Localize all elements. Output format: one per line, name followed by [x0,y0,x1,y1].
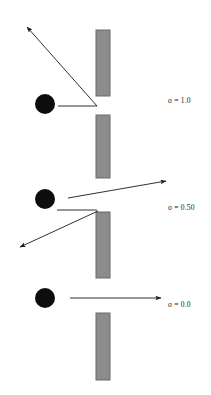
barrier-bar [96,313,110,380]
panel-panel-sigma-1 [27,27,110,178]
sigma-label-panel-sigma-0: σ = 0.0 [168,300,191,309]
diagram-canvas [0,0,211,395]
particle-circle [35,288,55,308]
barrier-bar [96,115,110,178]
panel-panel-sigma-050 [20,181,166,278]
outgoing-trajectory-arrow [68,181,166,198]
particle-circle [35,94,55,114]
barrier-bar [96,212,110,278]
sigma-label-panel-sigma-1: σ = 1.0 [168,96,191,105]
sigma-label-panel-sigma-050: σ = 0.50 [168,203,195,212]
panel-panel-sigma-0 [35,288,161,380]
barrier-bar [96,30,110,96]
outgoing-trajectory-arrow [20,211,98,247]
outgoing-trajectory-arrow [27,27,97,106]
scattering-diagram: σ = 1.0σ = 0.50σ = 0.0 [0,0,211,395]
particle-circle [35,189,55,209]
